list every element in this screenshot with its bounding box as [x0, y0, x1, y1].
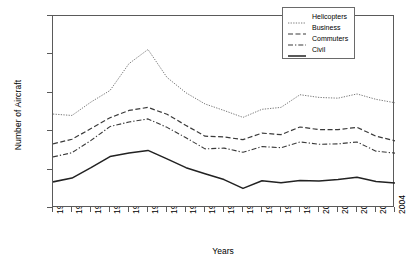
chart-legend: HelicoptersBusinessCommutersCivil [282, 7, 355, 59]
series-line-commuters [53, 119, 395, 157]
legend-label: Helicopters [312, 13, 347, 21]
legend-swatch-icon [287, 35, 307, 43]
series-line-business [53, 107, 395, 143]
legend-swatch-icon [287, 13, 307, 21]
x-axis-title: Years [52, 246, 394, 256]
legend-item-helicopters: Helicopters [287, 11, 348, 22]
legend-item-business: Business [287, 22, 348, 33]
line-chart-figure: Number of Aircraft Years 050010001500200… [0, 0, 413, 267]
legend-label: Business [312, 24, 340, 32]
series-line-civil [53, 150, 395, 188]
legend-item-civil: Civil [287, 44, 348, 55]
legend-swatch-icon [287, 24, 307, 32]
legend-label: Civil [312, 46, 325, 54]
legend-label: Commuters [312, 35, 348, 43]
legend-item-commuters: Commuters [287, 33, 348, 44]
legend-swatch-icon [287, 46, 307, 54]
y-axis-title: Number of Aircraft [13, 50, 23, 180]
x-axis-tick-label: 2004 [398, 195, 407, 214]
series-line-helicopters [53, 49, 395, 117]
